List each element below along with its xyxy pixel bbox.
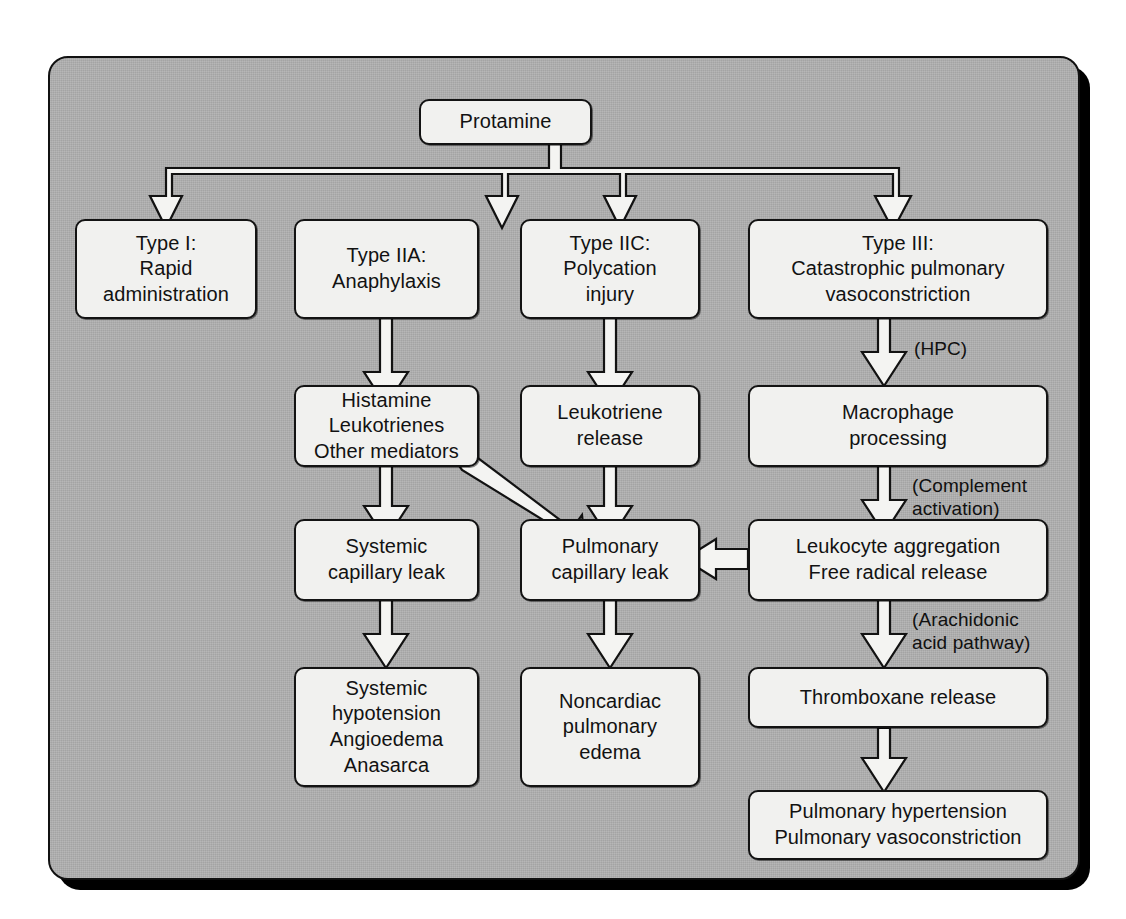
node-leukocyte-aggregation-label: Leukocyte aggregation Free radical relea… [788, 534, 1008, 585]
node-type-i-label: Type I: Rapid administration [95, 231, 237, 308]
node-type-iia-label: Type IIA: Anaphylaxis [324, 243, 449, 294]
node-macrophage-processing[interactable]: Macrophage processing [748, 385, 1048, 467]
node-protamine[interactable]: Protamine [419, 99, 592, 145]
node-leukotriene-release-label: Leukotriene release [549, 400, 671, 451]
node-mediators[interactable]: Histamine Leukotrienes Other mediators [294, 385, 479, 467]
node-type-iii[interactable]: Type III: Catastrophic pulmonary vasocon… [748, 219, 1048, 319]
node-type-iia[interactable]: Type IIA: Anaphylaxis [294, 219, 479, 319]
node-leukocyte-aggregation[interactable]: Leukocyte aggregation Free radical relea… [748, 519, 1048, 601]
node-type-iic[interactable]: Type IIC: Polycation injury [520, 219, 700, 319]
node-systemic-outcome[interactable]: Systemic hypotension Angioedema Anasarca [294, 667, 479, 787]
node-thromboxane-release[interactable]: Thromboxane release [748, 667, 1048, 728]
node-pulmonary-outcome[interactable]: Pulmonary hypertension Pulmonary vasocon… [748, 790, 1048, 860]
node-type-i[interactable]: Type I: Rapid administration [75, 219, 257, 319]
node-noncardiac-pulmonary-edema[interactable]: Noncardiac pulmonary edema [520, 667, 700, 787]
edge-label-complement-activation: (Complement activation) [912, 474, 1027, 520]
node-pulmonary-capillary-leak[interactable]: Pulmonary capillary leak [520, 519, 700, 601]
node-systemic-capillary-leak-label: Systemic capillary leak [320, 534, 453, 585]
node-noncardiac-pulmonary-edema-label: Noncardiac pulmonary edema [551, 689, 669, 766]
node-thromboxane-release-label: Thromboxane release [792, 685, 1004, 711]
flowchart-canvas: Protamine Type I: Rapid administration T… [0, 0, 1126, 919]
node-macrophage-processing-label: Macrophage processing [834, 400, 962, 451]
node-type-iic-label: Type IIC: Polycation injury [555, 231, 664, 308]
node-mediators-label: Histamine Leukotrienes Other mediators [306, 388, 467, 465]
node-systemic-capillary-leak[interactable]: Systemic capillary leak [294, 519, 479, 601]
edge-label-hpc: (HPC) [914, 337, 967, 360]
edge-label-arachidonic-acid-pathway: (Arachidonic acid pathway) [912, 608, 1031, 654]
node-type-iii-label: Type III: Catastrophic pulmonary vasocon… [783, 231, 1012, 308]
node-systemic-outcome-label: Systemic hypotension Angioedema Anasarca [322, 676, 451, 778]
node-protamine-label: Protamine [451, 109, 559, 135]
node-pulmonary-capillary-leak-label: Pulmonary capillary leak [543, 534, 676, 585]
node-leukotriene-release[interactable]: Leukotriene release [520, 385, 700, 467]
node-pulmonary-outcome-label: Pulmonary hypertension Pulmonary vasocon… [766, 799, 1029, 850]
